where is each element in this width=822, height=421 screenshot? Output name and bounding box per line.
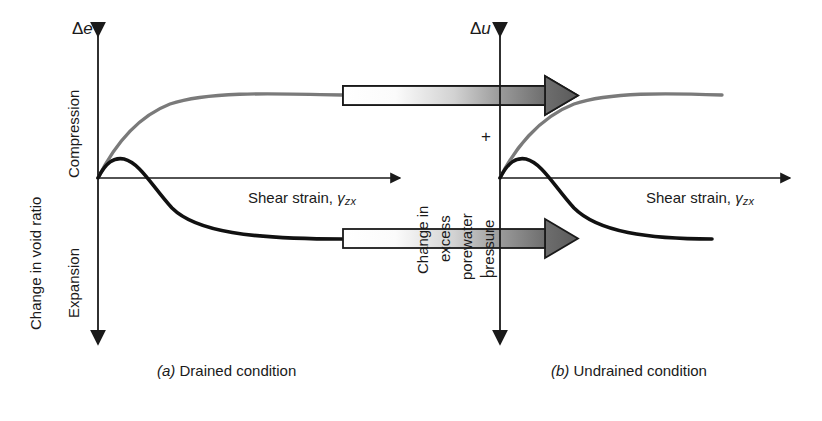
panel-b-positive-sign: + [481,128,491,145]
panel-b-negative-sign: − [479,268,489,285]
panel-a-expansion-label: Expansion [66,248,81,318]
panel-b-y-label-line-1: Change in [415,206,430,274]
panel-b-y-label-line-2: excess [437,215,452,262]
figure-canvas: Δe Change in void ratio Compression Expa… [0,0,822,421]
panel-b-y-axis-symbol: Δu [470,20,491,37]
panel-b-loose-sand-curve [500,94,722,178]
panel-a-y-axis-group-label: Change in void ratio [28,197,43,330]
panel-a-caption: (a) Drained condition [157,363,296,378]
diagram-svg [0,0,822,421]
panel-a-y-axis-symbol: Δe [72,20,93,37]
panel-a-compression-label: Compression [66,90,81,178]
upper-transfer-arrow [343,76,578,115]
panel-a-x-axis-label: Shear strain, γzx [248,190,356,207]
panel-b-curves [500,94,722,239]
panel-b-caption: (b) Undrained condition [551,363,707,378]
panel-b-x-axis-label: Shear strain, γzx [646,190,754,207]
panel-a-curves [98,94,342,239]
panel-b-y-label-line-3: porewater [459,213,474,280]
